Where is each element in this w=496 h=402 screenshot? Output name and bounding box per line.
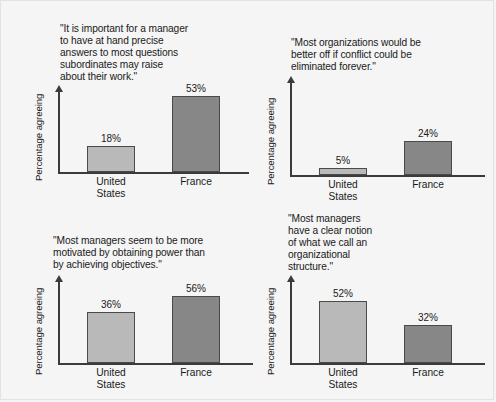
y-axis-line-1	[58, 91, 60, 173]
bar-united-states-2	[319, 168, 367, 175]
category-label-france-1: France	[166, 176, 226, 188]
category-label-france-3: France	[166, 367, 226, 379]
y-axis-line-4	[290, 281, 292, 364]
category-label-france-4: France	[398, 367, 458, 379]
bar-france-1	[172, 96, 220, 172]
y-axis-line-3	[58, 281, 60, 364]
chart-panel-3: "Most managers seem to be more motivated…	[25, 235, 253, 395]
chart-panel-1: "It is important for a manager to have a…	[25, 23, 249, 203]
bar-france-4	[404, 325, 452, 363]
bar-france-2	[404, 141, 452, 175]
plot-area-3: 36% 56% United States France	[25, 235, 253, 395]
plot-area-4: 52% 32% United States France	[257, 213, 485, 395]
figure-container: "It is important for a manager to have a…	[0, 0, 494, 400]
category-label-united-states-4: United States	[313, 367, 373, 390]
bar-value-united-states-3: 36%	[87, 299, 135, 310]
bar-united-states-3	[87, 312, 135, 363]
bar-value-united-states-1: 18%	[87, 133, 135, 144]
bar-value-united-states-2: 5%	[319, 155, 367, 166]
category-label-united-states-2: United States	[313, 179, 373, 202]
bar-value-united-states-4: 52%	[319, 288, 367, 299]
bar-united-states-1	[87, 146, 135, 172]
chart-panel-4: "Most managers have a clear notion of wh…	[257, 213, 485, 395]
category-label-france-2: France	[398, 179, 458, 191]
bar-france-3	[172, 296, 220, 363]
x-axis-line-2	[290, 175, 485, 177]
bar-value-france-1: 53%	[172, 83, 220, 94]
x-axis-line-1	[58, 172, 249, 174]
x-axis-line-3	[58, 363, 253, 365]
category-label-united-states-3: United States	[81, 367, 141, 390]
bar-value-france-2: 24%	[404, 128, 452, 139]
bar-united-states-4	[319, 301, 367, 363]
x-axis-line-4	[290, 363, 485, 365]
y-axis-line-2	[290, 82, 292, 176]
bar-value-france-3: 56%	[172, 283, 220, 294]
plot-area-2: 5% 24% United States France	[257, 37, 485, 207]
chart-panel-2: "Most organizations would be better off …	[257, 37, 485, 207]
bar-value-france-4: 32%	[404, 312, 452, 323]
category-label-united-states-1: United States	[81, 176, 141, 199]
plot-area-1: 18% 53% United States France	[25, 23, 249, 203]
